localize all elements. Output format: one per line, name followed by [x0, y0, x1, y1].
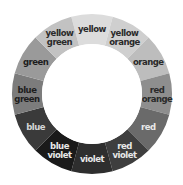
segment-label-line: green [23, 57, 49, 67]
segment-label-line: violet [80, 154, 104, 164]
segment-label-line: orange [133, 57, 164, 67]
segment-label-red: red [141, 122, 156, 132]
segment-label-blue-violet: blueviolet [47, 141, 71, 160]
segment-label-yellow-orange: yelloworange [109, 28, 140, 47]
segment-label-line: orange [142, 94, 173, 104]
segment-label-orange: orange [133, 57, 164, 67]
segment-label-line: green [14, 94, 40, 104]
color-wheel: yellowyelloworangeorangeredorangeredredv… [0, 0, 183, 185]
segment-label-line: orange [109, 37, 140, 47]
segment-label-yellow-green: yellowgreen [46, 28, 74, 47]
segment-label-line: red [141, 122, 156, 132]
segment-label-violet: violet [80, 154, 104, 164]
wheel-center-hole [42, 44, 142, 144]
segment-label-blue-green: bluegreen [14, 85, 40, 104]
segment-label-line: green [47, 37, 73, 47]
color-wheel-diagram: yellowyelloworangeorangeredorangeredredv… [0, 0, 183, 185]
segment-label-green: green [23, 57, 49, 67]
segment-label-line: blue [26, 122, 46, 132]
segment-label-yellow: yellow [78, 24, 106, 34]
segment-label-blue: blue [26, 122, 46, 132]
segment-label-line: violet [47, 150, 71, 160]
segment-label-line: yellow [78, 24, 106, 34]
segment-label-line: violet [112, 150, 136, 160]
